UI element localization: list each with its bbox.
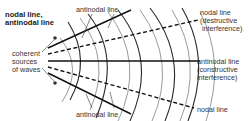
wave-source-upper [53, 36, 57, 40]
wave-source-lower [53, 81, 57, 85]
label-nodal-bottom: nodal line [197, 105, 228, 114]
label-sources-line3: of waves [12, 65, 41, 74]
label-antinodal-mid-line3: interference) [197, 73, 237, 82]
nodal-line-lower [48, 67, 194, 108]
label-nodal-top-line3: interference) [202, 24, 242, 33]
label-antinodal-top: antinodal line [76, 5, 118, 14]
label-antinodal-bottom: antinodal line [76, 110, 118, 119]
interference-diagram: nodal line, antinodal line antinodal lin… [0, 0, 249, 121]
antinodal-line-lower [48, 73, 131, 114]
legend-title-line2: antinodal line [5, 18, 54, 27]
